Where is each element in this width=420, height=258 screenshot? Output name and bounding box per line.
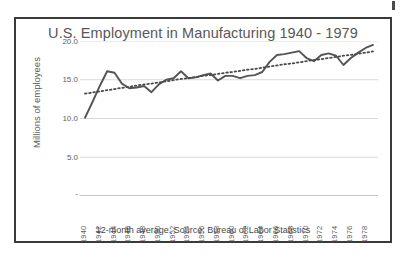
plot-area — [80, 41, 378, 196]
y-tick-5: 5.0 — [34, 153, 78, 162]
trendline — [85, 51, 373, 93]
gridlines — [80, 41, 378, 196]
y-tick-0: - — [34, 189, 78, 198]
data-line-manufacturing — [85, 45, 373, 118]
y-tick-20: 20.0 — [34, 37, 78, 46]
top-right-artifact — [392, 1, 395, 10]
data-series-layer — [85, 45, 373, 118]
y-tick-10: 10.0 — [34, 114, 78, 123]
x-axis-ticks: 1940194219441946194819501952195419561958… — [80, 199, 378, 243]
y-tick-15: 15.0 — [34, 75, 78, 84]
chart-frame: U.S. Employment in Manufacturing 1940 - … — [14, 17, 392, 243]
chart-svg — [80, 41, 378, 196]
y-axis-ticks: 20.0 15.0 10.0 5.0 - — [32, 19, 78, 241]
chart-caption: 12-month average. Source: Bureau of Labo… — [16, 225, 390, 235]
